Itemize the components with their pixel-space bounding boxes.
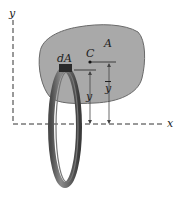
centroid-label: C [86, 48, 94, 59]
x-axis-label: x [167, 118, 173, 129]
ybar-distance-label: y [105, 81, 111, 94]
dA-label: dA [57, 53, 72, 64]
dA-element [59, 64, 72, 72]
area-label: A [104, 38, 112, 49]
y-axis-label: y [9, 8, 15, 19]
diagram-figure [0, 0, 185, 203]
y-distance-label: y [86, 91, 92, 102]
